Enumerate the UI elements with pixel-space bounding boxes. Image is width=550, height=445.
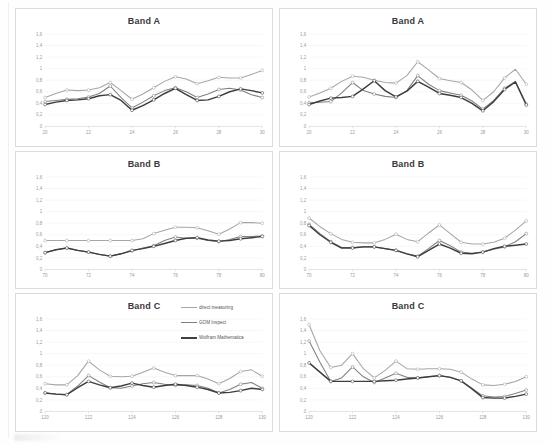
data-point-marker: [152, 245, 155, 248]
y-axis-tick-label: 1: [304, 209, 307, 214]
data-point-marker: [308, 216, 311, 219]
data-point-marker: [131, 239, 134, 242]
x-axis-tick-label: 80: [260, 273, 265, 278]
data-point-marker: [416, 240, 419, 243]
legend-item[interactable]: Wolfram Mathematica: [181, 334, 267, 341]
chart-band-b-right[interactable]: Band B00,20,40,60,811,21,41,670727476788…: [279, 151, 537, 290]
data-point-marker: [481, 384, 484, 387]
data-point-marker: [460, 81, 463, 84]
y-axis-tick-label: 0,6: [36, 89, 43, 94]
x-axis-tick-label: 24: [129, 130, 134, 135]
x-axis-tick-label: 76: [173, 273, 178, 278]
data-point-marker: [152, 367, 155, 370]
data-point-marker: [438, 92, 441, 95]
data-point-marker: [152, 232, 155, 235]
data-point-marker: [351, 246, 354, 249]
chart-cell-band-c-right: Band C00,20,40,60,811,21,41,612012212412…: [276, 291, 540, 434]
y-axis-tick-label: 0: [40, 124, 43, 129]
legend-label: Wolfram Mathematica: [199, 334, 244, 341]
data-point-marker: [503, 236, 506, 239]
data-point-marker: [109, 239, 112, 242]
x-axis-tick-label: 26: [437, 130, 442, 135]
data-point-marker: [416, 255, 419, 258]
data-point-marker: [438, 239, 441, 242]
data-point-marker: [239, 383, 242, 386]
y-axis-tick-label: 0: [40, 409, 43, 414]
data-point-marker: [351, 240, 354, 243]
chart-band-c-left[interactable]: Band C00,20,40,60,811,21,41,612012212412…: [15, 293, 273, 432]
data-point-marker: [395, 96, 398, 99]
y-axis-tick-label: 0,2: [300, 113, 307, 118]
data-point-marker: [351, 95, 354, 98]
data-point-marker: [261, 235, 264, 238]
chart-band-b-left[interactable]: Band B00,20,40,60,811,21,41,670727476788…: [15, 151, 273, 290]
data-point-marker: [174, 235, 177, 238]
data-point-marker: [239, 87, 242, 90]
data-point-marker: [109, 93, 112, 96]
legend-item[interactable]: direct measuring: [181, 304, 267, 311]
y-axis-tick-label: 0,6: [300, 375, 307, 380]
figure-page: Band A00,20,40,60,811,21,41,620222426283…: [0, 0, 550, 445]
data-point-marker: [525, 389, 528, 392]
data-point-marker: [373, 377, 376, 380]
data-point-marker: [438, 77, 441, 80]
data-point-marker: [174, 225, 177, 228]
data-point-marker: [65, 394, 68, 397]
y-axis-tick-label: 1: [40, 209, 43, 214]
y-axis-tick-label: 0,4: [36, 101, 43, 106]
data-point-marker: [481, 99, 484, 102]
x-axis-tick-label: 28: [480, 130, 485, 135]
data-point-marker: [460, 251, 463, 254]
x-axis-tick-label: 72: [350, 273, 355, 278]
data-point-marker: [308, 340, 311, 343]
data-point-marker: [351, 75, 354, 78]
data-point-marker: [239, 370, 242, 373]
chart-band-a-right[interactable]: Band A00,20,40,60,811,21,41,620222426283…: [279, 8, 537, 147]
data-point-marker: [44, 103, 47, 106]
data-point-marker: [416, 60, 419, 63]
y-axis-tick-label: 1: [40, 66, 43, 71]
data-point-marker: [196, 226, 199, 229]
x-axis-tick-label: 126: [172, 415, 180, 420]
y-axis-tick-label: 1: [304, 66, 307, 71]
data-point-marker: [131, 249, 134, 252]
chart-cell-band-b-left: Band B00,20,40,60,811,21,41,670727476788…: [12, 149, 276, 292]
data-point-marker: [44, 100, 47, 103]
data-point-marker: [351, 380, 354, 383]
y-axis-tick-label: 0,2: [300, 398, 307, 403]
chart-legend: direct measuringGOM InspectWolfram Mathe…: [181, 304, 267, 349]
data-point-marker: [87, 380, 90, 383]
data-point-marker: [525, 104, 528, 107]
data-point-marker: [395, 249, 398, 252]
data-point-marker: [196, 375, 199, 378]
plot-area: 00,20,40,60,811,21,41,6202224262830: [16, 9, 272, 146]
y-axis-tick-label: 0: [304, 124, 307, 129]
data-point-marker: [196, 99, 199, 102]
x-axis-tick-label: 30: [524, 130, 529, 135]
data-point-marker: [308, 96, 311, 99]
y-axis-tick-label: 1,6: [36, 317, 43, 322]
data-point-marker: [525, 376, 528, 379]
y-axis-tick-label: 0,8: [36, 363, 43, 368]
y-axis-tick-label: 0: [304, 409, 307, 414]
data-point-marker: [481, 396, 484, 399]
data-point-marker: [44, 383, 47, 386]
legend-label: GOM Inspect: [199, 319, 226, 326]
series-line-2: [309, 81, 526, 111]
legend-item[interactable]: GOM Inspect: [181, 319, 267, 326]
data-point-marker: [152, 86, 155, 89]
plot-area: 00,20,40,60,811,21,41,612012212412612813…: [280, 294, 536, 431]
data-point-marker: [87, 239, 90, 242]
chart-band-c-right[interactable]: Band C00,20,40,60,811,21,41,612012212412…: [279, 293, 537, 432]
data-point-marker: [373, 380, 376, 383]
chart-cell-band-a-right: Band A00,20,40,60,811,21,41,620222426283…: [276, 6, 540, 149]
x-axis-tick-label: 74: [393, 273, 398, 278]
y-axis-tick-label: 1,2: [300, 340, 307, 345]
chart-band-a-left[interactable]: Band A00,20,40,60,811,21,41,620222426283…: [15, 8, 273, 147]
x-axis-tick-label: 72: [86, 273, 91, 278]
data-point-marker: [481, 250, 484, 253]
y-axis-tick-label: 1,4: [36, 43, 43, 48]
data-point-marker: [395, 232, 398, 235]
legend-line-swatch: [181, 305, 197, 311]
chart-grid: Band A00,20,40,60,811,21,41,620222426283…: [12, 6, 540, 434]
